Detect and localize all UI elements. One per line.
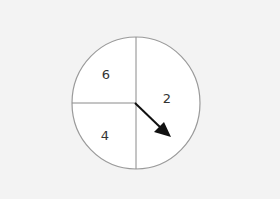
section-label-6: 6 — [102, 67, 110, 82]
diagram-canvas: 6 2 4 — [0, 0, 280, 199]
section-label-4: 4 — [101, 128, 109, 143]
section-label-2: 2 — [163, 91, 171, 106]
spinner: 6 2 4 — [0, 0, 280, 199]
